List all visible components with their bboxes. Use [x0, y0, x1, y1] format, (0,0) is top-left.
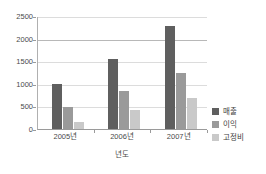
y-tick-label: 2500	[1, 13, 33, 21]
bar	[187, 98, 197, 129]
bar	[165, 26, 175, 129]
y-tick-mark	[33, 130, 36, 131]
bar	[176, 73, 186, 130]
y-tick-label: 0	[1, 126, 33, 134]
x-tick-label: 2007년	[150, 132, 207, 144]
bar-group	[94, 17, 150, 129]
y-tick-label: 2000	[1, 36, 33, 44]
bar-groups	[38, 17, 207, 129]
legend-swatch-icon	[212, 134, 219, 141]
y-axis: 25002000150010005000	[0, 17, 33, 130]
x-tick-mark	[150, 130, 151, 133]
bar-group	[151, 17, 207, 129]
bar	[130, 110, 140, 129]
y-tick-label: 1000	[1, 81, 33, 89]
bar-group	[38, 17, 94, 129]
x-axis-labels: 2005년2006년2007년	[37, 132, 207, 144]
legend-item[interactable]: 매출	[212, 105, 264, 117]
x-tick-mark	[207, 130, 208, 133]
bar	[52, 84, 62, 129]
x-axis-title: 년도	[37, 150, 207, 160]
legend-swatch-icon	[212, 121, 219, 128]
y-tick-label: 1500	[1, 58, 33, 66]
y-tick-mark	[33, 107, 36, 108]
y-tick-mark	[33, 62, 36, 63]
x-tick-mark	[94, 130, 95, 133]
legend-label: 고정비	[223, 133, 244, 142]
bar	[119, 91, 129, 129]
chart-legend: 매출이익고정비	[212, 105, 264, 144]
y-tick-mark	[33, 17, 36, 18]
bar	[108, 59, 118, 130]
bar	[63, 107, 73, 129]
legend-label: 이익	[223, 120, 237, 129]
y-tick-mark	[33, 40, 36, 41]
plot-area	[37, 17, 207, 130]
legend-swatch-icon	[212, 108, 219, 115]
y-tick-label: 500	[1, 103, 33, 111]
legend-item[interactable]: 고정비	[212, 131, 264, 143]
x-tick-label: 2006년	[94, 132, 151, 144]
y-tick-mark	[33, 85, 36, 86]
legend-label: 매출	[223, 107, 237, 116]
legend-item[interactable]: 이익	[212, 118, 264, 130]
x-tick-label: 2005년	[37, 132, 94, 144]
bar	[74, 122, 84, 129]
bar-chart: 25002000150010005000 2005년2006년2007년 년도 …	[0, 0, 266, 174]
